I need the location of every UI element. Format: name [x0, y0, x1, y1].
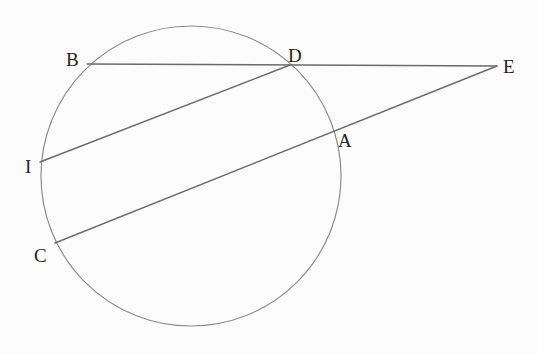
- point-label-a: A: [338, 130, 352, 151]
- secant-line-c-a-e: [55, 66, 497, 243]
- geometry-figure: B D E A I C: [0, 0, 537, 354]
- point-label-i: I: [25, 156, 31, 177]
- point-label-b: B: [66, 49, 79, 70]
- point-label-c: C: [34, 245, 47, 266]
- chord-line-i-d: [40, 65, 290, 162]
- point-label-e: E: [503, 56, 515, 77]
- figure-canvas: B D E A I C: [0, 0, 537, 354]
- point-label-d: D: [288, 45, 302, 66]
- circle: [41, 26, 341, 326]
